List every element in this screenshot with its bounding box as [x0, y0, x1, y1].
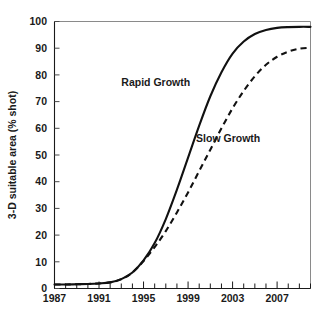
x-tick-label: 1987 — [43, 292, 67, 304]
y-tick-label: 40 — [35, 175, 47, 187]
y-tick-label: 50 — [35, 149, 47, 161]
y-tick-label: 70 — [35, 95, 47, 107]
y-tick-label: 30 — [35, 202, 47, 214]
series-label-slow-growth: Slow Growth — [196, 132, 260, 144]
y-axis-title: 3-D suitable area (% shot) — [6, 91, 18, 219]
x-tick-label: 1995 — [132, 292, 156, 304]
x-tick-label: 2007 — [265, 292, 289, 304]
x-tick-label: 1999 — [176, 292, 200, 304]
chart-background — [0, 0, 328, 319]
y-tick-label: 10 — [35, 256, 47, 268]
y-tick-label: 20 — [35, 229, 47, 241]
x-tick-label: 1991 — [87, 292, 111, 304]
chart-figure: 0102030405060708090100 19871991199519992… — [0, 0, 328, 319]
x-tick-label: 2003 — [221, 292, 245, 304]
y-tick-label: 80 — [35, 69, 47, 81]
y-tick-label: 90 — [35, 42, 47, 54]
line-chart: 0102030405060708090100 19871991199519992… — [0, 0, 328, 319]
y-tick-label: 60 — [35, 122, 47, 134]
series-label-rapid-growth: Rapid Growth — [121, 76, 190, 88]
y-tick-label: 100 — [29, 15, 47, 27]
